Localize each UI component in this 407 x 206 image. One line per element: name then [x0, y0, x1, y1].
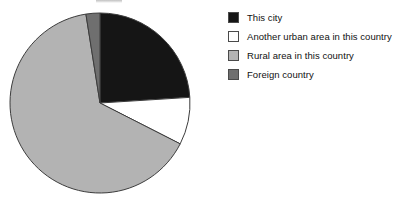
- pie-chart-plot-area: [0, 0, 215, 206]
- legend-label-foreign-country: Foreign country: [247, 69, 314, 80]
- legend-swatch-another-urban-area: [228, 31, 239, 42]
- legend-label-this-city: This city: [247, 12, 282, 23]
- chart-legend: This city Another urban area in this cou…: [228, 8, 404, 84]
- legend-swatch-rural-area: [228, 50, 239, 61]
- legend-swatch-foreign-country: [228, 69, 239, 80]
- legend-item-another-urban-area[interactable]: Another urban area in this country: [228, 27, 404, 46]
- pie-slice-group: [10, 13, 190, 193]
- legend-item-foreign-country[interactable]: Foreign country: [228, 65, 404, 84]
- pie-chart-svg: [0, 0, 215, 206]
- pie-slice-1[interactable]: [100, 13, 190, 103]
- legend-swatch-this-city: [228, 12, 239, 23]
- legend-label-another-urban-area: Another urban area in this country: [247, 31, 392, 42]
- legend-item-this-city[interactable]: This city: [228, 8, 404, 27]
- legend-label-rural-area: Rural area in this country: [247, 50, 354, 61]
- pie-chart-figure: This city Another urban area in this cou…: [0, 0, 407, 206]
- legend-item-rural-area[interactable]: Rural area in this country: [228, 46, 404, 65]
